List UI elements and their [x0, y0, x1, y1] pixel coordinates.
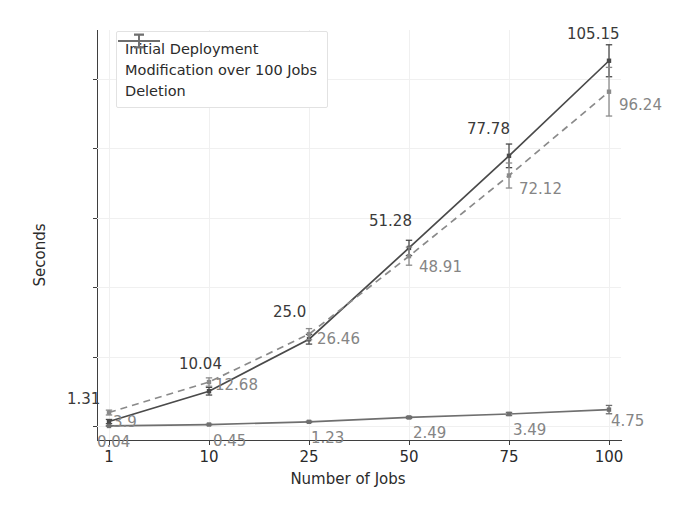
data-point-label: 48.91	[419, 258, 462, 276]
x-tick	[209, 440, 210, 445]
data-point-label: 105.15	[567, 25, 620, 43]
y-axis-title: Seconds	[31, 223, 49, 286]
data-point-label: 25.0	[273, 303, 306, 321]
data-point-label: 12.68	[215, 376, 258, 394]
data-point-label: 1.23	[311, 429, 344, 447]
data-point-label: 72.12	[519, 180, 562, 198]
x-tick-label: 50	[399, 448, 418, 466]
x-tick-label: 75	[499, 448, 518, 466]
data-point-label: 1.31	[67, 390, 100, 408]
data-point	[307, 332, 311, 336]
data-point	[207, 422, 211, 426]
x-tick-label: 25	[299, 448, 318, 466]
data-point	[207, 380, 211, 384]
data-point-label: 3.9	[113, 413, 137, 431]
data-point-label: 10.04	[179, 355, 222, 373]
legend-label: Deletion	[125, 83, 186, 99]
data-point-label: 0.04	[97, 433, 130, 451]
figure: Seconds Number of Jobs 020406080100 1102…	[0, 0, 696, 510]
x-tick	[409, 440, 410, 445]
data-point-label: 96.24	[619, 96, 662, 114]
data-point-label: 26.46	[317, 330, 360, 348]
data-point	[407, 254, 411, 258]
data-point-label: 51.28	[369, 212, 412, 230]
data-point-label: 77.78	[467, 120, 510, 138]
data-point	[107, 410, 111, 414]
x-tick-label: 100	[595, 448, 624, 466]
data-point	[507, 154, 511, 158]
data-point	[607, 59, 611, 63]
x-axis-title: Number of Jobs	[0, 470, 696, 488]
data-point	[507, 412, 511, 416]
data-point	[307, 420, 311, 424]
legend-key-solid-icon	[117, 32, 161, 50]
data-point	[507, 173, 511, 177]
x-tick	[609, 440, 610, 445]
data-point	[407, 415, 411, 419]
x-tick	[509, 440, 510, 445]
data-point-label: 4.75	[611, 412, 644, 430]
x-tick-label: 10	[199, 448, 218, 466]
data-point-label: 0.45	[213, 432, 246, 450]
data-point	[107, 419, 111, 423]
legend-label: Modification over 100 Jobs	[125, 62, 317, 78]
data-point	[107, 424, 111, 428]
legend-item-deletion[interactable]: Deletion	[125, 80, 317, 101]
legend: Initial Deployment Modification over 100…	[116, 31, 328, 108]
data-point-label: 2.49	[413, 424, 446, 442]
data-point	[607, 90, 611, 94]
x-tick	[309, 440, 310, 445]
x-axis-spine	[97, 440, 622, 441]
legend-item-modification-over-100-jobs[interactable]: Modification over 100 Jobs	[125, 59, 317, 80]
data-point	[207, 389, 211, 393]
data-point-label: 3.49	[513, 421, 546, 439]
